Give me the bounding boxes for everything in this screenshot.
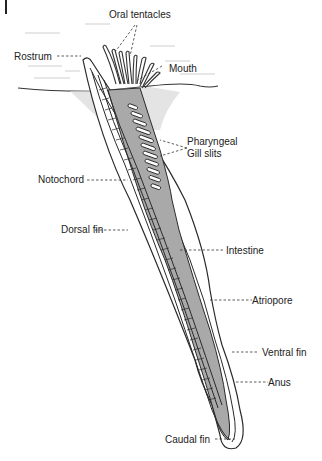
label-ventral-fin: Ventral fin	[262, 347, 306, 358]
label-caudal-fin: Caudal fin	[165, 434, 210, 445]
label-notochord: Notochord	[38, 174, 84, 185]
label-intestine: Intestine	[226, 245, 264, 256]
label-anus: Anus	[268, 377, 291, 388]
lancelet-illustration	[0, 0, 322, 461]
label-mouth: Mouth	[169, 63, 197, 74]
label-gill-slits: Gill slits	[187, 148, 221, 159]
lancelet-diagram: Oral tentacles Rostrum Mouth Pharyngeal …	[0, 0, 322, 461]
label-pharyngeal: Pharyngeal	[187, 136, 238, 147]
label-oral-tentacles: Oral tentacles	[109, 9, 171, 20]
label-dorsal-fin: Dorsal fin	[61, 224, 103, 235]
label-atriopore: Atriopore	[252, 295, 293, 306]
oral-tentacles	[103, 45, 160, 88]
label-rostrum: Rostrum	[14, 51, 52, 62]
